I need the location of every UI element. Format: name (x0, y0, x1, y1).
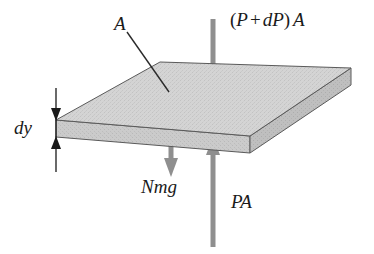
paren-close: ) (284, 9, 290, 31)
physics-figure: A dy Nmg PA (P+dP)A (0, 0, 374, 254)
label-pressure-bottom-pa: PA (230, 191, 252, 212)
figure-canvas: A dy Nmg PA (P+dP)A (0, 0, 374, 254)
dy-dimension-head-bottom (51, 136, 61, 149)
symbol-A: A (291, 9, 305, 30)
label-area-A: A (112, 13, 126, 34)
symbol-dP: dP (263, 9, 285, 30)
label-pressure-top: (P+dP)A (230, 9, 305, 31)
symbol-plus: + (250, 9, 261, 30)
symbol-P: P (235, 9, 248, 30)
label-weight-nmg: Nmg (140, 176, 177, 197)
label-thickness-dy: dy (14, 117, 33, 138)
weight-arrow-head (164, 158, 178, 177)
pressure-bottom-arrow (206, 136, 220, 247)
